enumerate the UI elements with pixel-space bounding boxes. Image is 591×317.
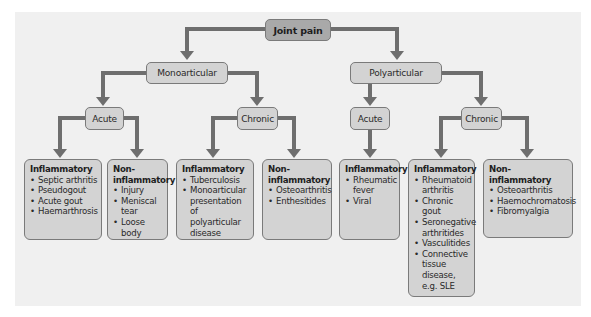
leaf-poly-acute-inflammatory: Inflammatory Rheumatic feverViral	[339, 159, 400, 240]
arrow-poly-acute-infl-arrowhead-icon	[363, 149, 377, 158]
leaf-list: OsteoarthritisEnthesitides	[268, 185, 328, 206]
leaf-mono-acute-non-inflammatory: Non-inflammatory InjuryMeniscal tearLoos…	[107, 159, 168, 240]
leaf-list: TuberculosisMonoarticular presentation o…	[182, 175, 250, 239]
arrow-mono-acute-line	[103, 73, 146, 100]
node-label: Acute	[92, 114, 117, 124]
leaf-list: OsteoarthritisHaemochromatosisFibromyalg…	[489, 185, 569, 217]
node-label: Monoarticular	[157, 68, 217, 78]
leaf-item: Haemarthrosis	[30, 206, 98, 217]
node-label: Joint pain	[273, 25, 322, 36]
leaf-poly-chronic-inflammatory: Inflammatory Rheumatoid arthritisChronic…	[408, 159, 475, 297]
node-poly-chronic: Chronic	[461, 107, 502, 130]
leaf-item: Septic arthritis	[30, 175, 98, 186]
arrow-root-poly-arrowhead-icon	[390, 51, 404, 60]
node-mono-chronic: Chronic	[237, 107, 278, 130]
leaf-item: Seronegative arthritides	[414, 217, 471, 238]
leaf-mono-chronic-non-inflammatory: Non-inflammatory OsteoarthritisEnthesiti…	[262, 159, 332, 240]
arrow-poly-chronic-infl-line	[441, 118, 461, 152]
arrow-mono-chronic-infl-line	[213, 118, 237, 152]
arrow-root-mono-arrowhead-icon	[180, 51, 194, 60]
leaf-item: Pseudogout	[30, 185, 98, 196]
leaf-heading: Inflammatory	[414, 164, 471, 175]
leaf-heading: Inflammatory	[30, 164, 98, 175]
arrow-poly-chronic-noninfl-line	[502, 118, 527, 152]
leaf-item: Tuberculosis	[182, 175, 250, 186]
leaf-list: Rheumatic feverViral	[345, 175, 396, 207]
arrow-mono-chronic-infl-arrowhead-icon	[206, 149, 220, 158]
leaf-item: Connective tissue disease, e.g. SLE	[414, 249, 471, 291]
leaf-list: Rheumatoid arthritisChronic goutSeronega…	[414, 175, 471, 292]
arrow-mono-acute-arrowhead-icon	[96, 97, 110, 106]
leaf-list: InjuryMeniscal tearLoose body	[113, 185, 164, 238]
leaf-item: Haemochromatosis	[489, 196, 569, 207]
leaf-item: Meniscal tear	[113, 196, 164, 217]
arrow-mono-acute-noninfl-line	[124, 118, 137, 152]
arrow-mono-chronic-line	[228, 73, 257, 100]
leaf-item: Osteoarthritis	[489, 185, 569, 196]
arrow-poly-chronic-line	[442, 73, 481, 100]
leaf-heading: Inflammatory	[345, 164, 396, 175]
leaf-heading: Inflammatory	[182, 164, 250, 175]
leaf-item: Chronic gout	[414, 196, 471, 217]
arrow-poly-chronic-arrowhead-icon	[474, 97, 488, 106]
leaf-item: Injury	[113, 185, 164, 196]
node-label: Chronic	[241, 114, 274, 124]
leaf-item: Loose body	[113, 217, 164, 238]
arrow-mono-chronic-arrowhead-icon	[250, 97, 264, 106]
leaf-item: Acute gout	[30, 196, 98, 207]
node-poly-acute: Acute	[350, 107, 390, 130]
arrow-poly-acute-arrowhead-icon	[363, 97, 377, 106]
leaf-mono-chronic-inflammatory: Inflammatory TuberculosisMonoarticular p…	[176, 159, 254, 240]
arrow-mono-chronic-noninfl-line	[278, 118, 294, 152]
leaf-item: Viral	[345, 196, 396, 207]
leaf-heading: Non-inflammatory	[489, 164, 569, 185]
node-label: Chronic	[465, 114, 498, 124]
arrow-mono-chronic-noninfl-arrowhead-icon	[287, 149, 301, 158]
leaf-mono-acute-inflammatory: Inflammatory Septic arthritisPseudogoutA…	[24, 159, 102, 240]
leaf-item: Vasculitides	[414, 238, 471, 249]
leaf-heading: Non-inflammatory	[113, 164, 164, 185]
node-label: Acute	[358, 114, 383, 124]
node-mono-acute: Acute	[85, 107, 124, 130]
node-polyarticular: Polyarticular	[350, 62, 442, 84]
arrow-mono-acute-noninfl-arrowhead-icon	[130, 149, 144, 158]
leaf-item: Rheumatic fever	[345, 175, 396, 196]
arrow-mono-acute-infl-arrowhead-icon	[53, 149, 67, 158]
arrow-poly-chronic-noninfl-arrowhead-icon	[520, 149, 534, 158]
node-monoarticular: Monoarticular	[146, 62, 228, 84]
arrow-root-poly-line	[331, 29, 397, 54]
node-joint-pain: Joint pain	[265, 19, 331, 41]
leaf-item: Monoarticular presentation of polyarticu…	[182, 185, 250, 238]
leaf-item: Fibromyalgia	[489, 206, 569, 217]
leaf-list: Septic arthritisPseudogoutAcute goutHaem…	[30, 175, 98, 217]
leaf-item: Enthesitides	[268, 196, 328, 207]
leaf-heading: Non-inflammatory	[268, 164, 328, 185]
arrow-poly-chronic-infl-arrowhead-icon	[434, 149, 448, 158]
arrow-root-mono-line	[187, 29, 265, 54]
leaf-item: Rheumatoid arthritis	[414, 175, 471, 196]
leaf-item: Osteoarthritis	[268, 185, 328, 196]
leaf-poly-chronic-non-inflammatory: Non-inflammatory OsteoarthritisHaemochro…	[483, 159, 573, 238]
node-label: Polyarticular	[369, 68, 422, 78]
arrow-mono-acute-infl-line	[60, 118, 85, 152]
